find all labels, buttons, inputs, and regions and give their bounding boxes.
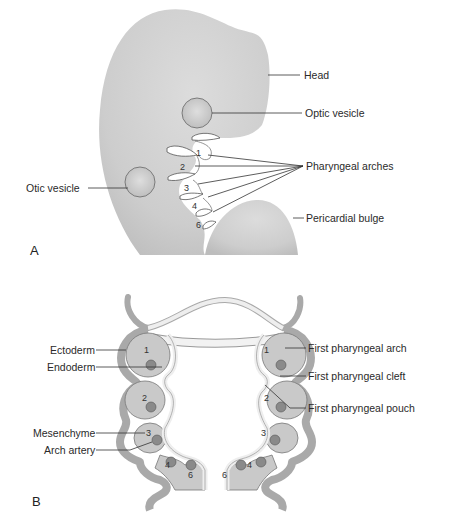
pharyngeal-arch-section: 1 2 3 4 6 1 2 3 4 6 <box>96 297 312 510</box>
panel-letter-b: B <box>32 494 41 509</box>
optic-vesicle-shape <box>182 98 212 128</box>
b-right-number-3: 3 <box>261 428 266 438</box>
label-otic-vesicle: Otic vesicle <box>26 182 80 194</box>
label-endoderm: Endoderm <box>47 361 95 373</box>
embryo-lateral-view: 1 2 3 4 6 <box>88 9 304 255</box>
b-right-number-1: 1 <box>264 345 269 355</box>
b-right-number-4: 4 <box>247 460 252 470</box>
b-left-number-1: 1 <box>144 345 149 355</box>
arch-number-4: 4 <box>192 201 197 211</box>
label-ectoderm: Ectoderm <box>50 344 95 356</box>
label-pharyngeal-arches: Pharyngeal arches <box>306 160 394 172</box>
arch-number-2: 2 <box>180 162 185 172</box>
panel-letter-a: A <box>30 243 39 258</box>
arch-number-6: 6 <box>196 220 201 230</box>
label-first-pharyngeal-cleft: First pharyngeal cleft <box>308 370 405 382</box>
b-left-number-6: 6 <box>188 470 193 480</box>
b-right-number-6: 6 <box>222 470 227 480</box>
label-arch-artery: Arch artery <box>44 444 95 456</box>
otic-vesicle-shape <box>125 167 155 197</box>
b-left-number-4: 4 <box>165 460 170 470</box>
label-first-pharyngeal-arch: First pharyngeal arch <box>308 342 407 354</box>
b-left-number-2: 2 <box>142 393 147 403</box>
left-arches <box>120 330 205 510</box>
label-head: Head <box>304 69 329 81</box>
label-optic-vesicle: Optic vesicle <box>305 107 365 119</box>
label-pericardial-bulge: Pericardial bulge <box>306 212 384 224</box>
label-mesenchyme: Mesenchyme <box>33 427 95 439</box>
b-right-number-2: 2 <box>264 393 269 403</box>
label-first-pharyngeal-pouch: First pharyngeal pouch <box>308 402 415 414</box>
arch-number-1: 1 <box>196 148 201 158</box>
arch-number-3: 3 <box>184 183 189 193</box>
b-left-number-3: 3 <box>146 428 151 438</box>
right-arches <box>227 330 312 510</box>
